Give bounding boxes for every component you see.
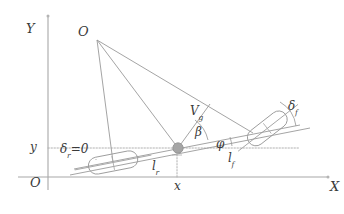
velocity-vector-label: Vg (190, 105, 203, 120)
vehicle-body-axis-group (70, 125, 310, 175)
rear-steer-angle-label: δr=0 (60, 143, 89, 158)
front-length-subscript: f (232, 160, 235, 169)
sideslip-angle-label: β (195, 126, 202, 138)
velocity-subscript: g (198, 113, 203, 122)
y-tick-label: y (30, 141, 37, 153)
center-of-gravity-dot (173, 143, 183, 153)
heading-angle-label: φ (216, 138, 224, 150)
icr-point-label: O (78, 25, 89, 38)
chassis-edge-line (74, 125, 300, 169)
body-longitudinal-axis (70, 128, 310, 175)
origin-label: O (30, 176, 41, 189)
vehicle-kinematics-diagram: Y X O y x O Vg β φ δf δr=0 lr lf (0, 0, 344, 214)
rear-length-label: lr (152, 160, 159, 175)
front-steer-angle-label: δf (288, 100, 298, 115)
y-axis-label: Y (26, 22, 35, 35)
rear-steer-subscript: r (67, 151, 71, 160)
y-axis-end-marker (47, 15, 50, 18)
front-length-label: lf (228, 152, 235, 167)
icr-to-front-wheel-line (97, 40, 253, 133)
rear-steer-value: =0 (71, 142, 89, 156)
x-axis-label: X (330, 180, 339, 193)
x-tick-label: x (174, 180, 181, 192)
rear-length-subscript: r (156, 168, 160, 177)
front-steer-subscript: f (295, 108, 298, 117)
